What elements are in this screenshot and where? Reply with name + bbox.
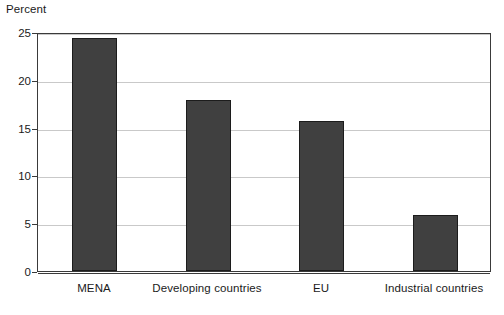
y-tick-mark-15 — [32, 129, 37, 130]
y-tick-label-20: 20 — [5, 75, 31, 87]
bar — [72, 38, 117, 271]
gridline-0 — [38, 273, 490, 274]
y-axis-tick-labels: 0510152025 — [0, 0, 31, 315]
y-tick-mark-0 — [32, 272, 37, 273]
y-tick-mark-5 — [32, 224, 37, 225]
gridline-25 — [38, 34, 490, 35]
bar-chart: Percent 0510152025 MENADeveloping countr… — [0, 0, 504, 315]
plot-area — [37, 33, 491, 272]
x-tick-label: EU — [313, 281, 329, 295]
y-tick-label-10: 10 — [5, 170, 31, 182]
y-tick-mark-20 — [32, 81, 37, 82]
bar — [299, 121, 344, 271]
y-tick-label-15: 15 — [5, 123, 31, 135]
y-tick-mark-10 — [32, 176, 37, 177]
x-tick-label: Developing countries — [152, 281, 261, 295]
bar — [186, 100, 231, 271]
bar — [413, 215, 458, 271]
x-tick-label: Industrial countries — [385, 281, 484, 295]
y-tick-label-25: 25 — [5, 27, 31, 39]
x-tick-label: MENA — [77, 281, 111, 295]
y-tick-mark-25 — [32, 33, 37, 34]
y-tick-label-0: 0 — [5, 266, 31, 278]
y-tick-label-5: 5 — [5, 218, 31, 230]
